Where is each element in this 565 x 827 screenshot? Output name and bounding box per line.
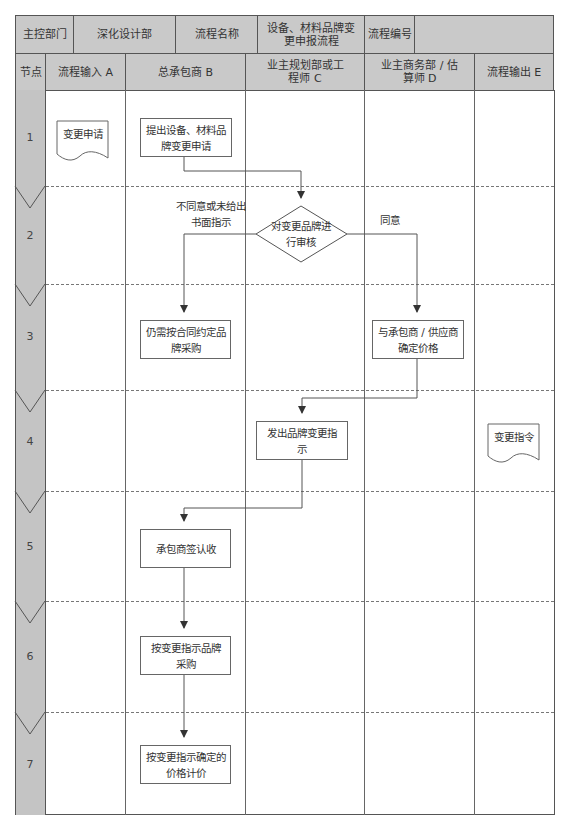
step-issue-change-instruction: 发出品牌变更指示 — [256, 421, 348, 460]
reject-label: 不同意或未给出书面指示 — [176, 198, 246, 230]
doc-output-label: 变更指令 — [488, 429, 539, 445]
doc-input-label: 变更申请 — [57, 126, 108, 142]
chevron-icons — [15, 186, 45, 734]
step-submit-request: 提出设备、材料品牌变更申请 — [140, 118, 232, 157]
agree-label: 同意 — [372, 212, 408, 228]
step-price-by-instruction: 按变更指示确定的价格计价 — [140, 745, 231, 784]
connector-layer — [0, 0, 565, 827]
decision-label: 对变更品牌进行审核 — [268, 218, 334, 250]
step-keep-contract-brand: 仍需按合同约定品牌采购 — [140, 320, 231, 359]
step-purchase-by-instruction: 按变更指示品牌采购 — [140, 636, 231, 675]
step-contractor-acknowledge: 承包商签认收 — [140, 529, 231, 568]
step-confirm-price: 与承包商 / 供应商确定价格 — [372, 320, 464, 359]
